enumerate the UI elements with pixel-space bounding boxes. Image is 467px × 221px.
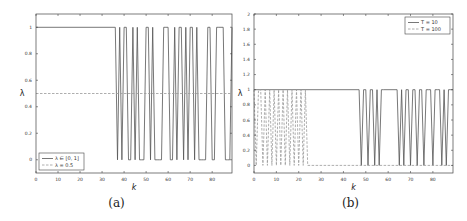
x-tick-label: 0: [35, 177, 38, 182]
x-tick-label: 70: [408, 177, 414, 182]
x-tick-label: 40: [121, 177, 127, 182]
legend-label: λ = 0.5: [55, 162, 73, 168]
y-tick-label: 0.8: [25, 51, 32, 56]
caption-a: (a): [0, 196, 233, 210]
y-tick-label: 0: [29, 157, 32, 162]
legend: T = 10T = 100: [405, 17, 450, 34]
caption-b: (b): [234, 196, 467, 210]
y-tick-label: 1.8: [243, 27, 250, 32]
x-tick-label: 30: [318, 177, 324, 182]
x-tick-label: 80: [209, 177, 215, 182]
y-tick-label: 1: [29, 25, 32, 30]
y-tick-label: 0.4: [243, 133, 250, 138]
y-axis-label: λ: [238, 89, 243, 98]
x-tick-label: 30: [99, 177, 105, 182]
y-tick-label: 0.2: [25, 131, 32, 136]
y-tick-label: 1.6: [243, 42, 250, 47]
x-tick-label: 60: [385, 177, 391, 182]
y-tick-label: 2: [247, 12, 250, 17]
x-tick-label: 20: [296, 177, 302, 182]
y-tick-label: 0.2: [243, 148, 250, 153]
y-axis-label: λ: [20, 89, 25, 98]
legend-label: λ ∈ [0, 1]: [55, 155, 79, 161]
x-tick-label: 10: [273, 177, 279, 182]
y-tick-label: 0.6: [25, 78, 32, 83]
legend-label: T = 10: [420, 19, 438, 25]
legend: λ ∈ [0, 1]λ = 0.5: [39, 153, 84, 170]
chart-a-plot: 0102030405060708000.20.40.60.81kλλ ∈ [0,…: [0, 0, 233, 196]
x-axis-label: k: [132, 183, 137, 192]
x-axis-label: k: [351, 183, 356, 192]
y-tick-label: 1.4: [243, 57, 250, 62]
x-tick-label: 60: [165, 177, 171, 182]
y-tick-label: 0.6: [243, 118, 250, 123]
y-tick-label: 0.8: [243, 102, 250, 107]
x-tick-label: 10: [55, 177, 61, 182]
chart-panel-a: 0102030405060708000.20.40.60.81kλλ ∈ [0,…: [0, 0, 233, 221]
x-tick-label: 20: [77, 177, 83, 182]
y-tick-label: 0: [247, 163, 250, 168]
y-tick-label: 1: [247, 87, 250, 92]
legend-label: T = 100: [420, 26, 441, 32]
x-tick-label: 0: [253, 177, 256, 182]
x-tick-label: 50: [143, 177, 149, 182]
y-tick-label: 0.4: [25, 104, 32, 109]
x-tick-label: 70: [187, 177, 193, 182]
x-tick-label: 80: [430, 177, 436, 182]
x-tick-label: 50: [363, 177, 369, 182]
chart-b-plot: 0102030405060708000.20.40.60.811.21.41.6…: [234, 0, 467, 196]
y-tick-label: 1.2: [243, 72, 250, 77]
chart-panel-b: 0102030405060708000.20.40.60.811.21.41.6…: [234, 0, 467, 221]
x-tick-label: 40: [341, 177, 347, 182]
